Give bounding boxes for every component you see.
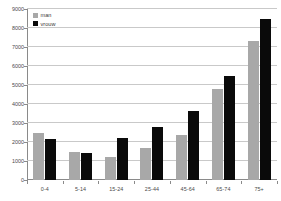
x-tick-label: 25-44 (145, 186, 159, 192)
x-tick-mark (98, 181, 99, 184)
x-tick-mark (134, 181, 135, 184)
y-tick-mark (24, 142, 27, 143)
y-tick-label: 4000 (0, 101, 24, 107)
y-tick-label: 6000 (0, 63, 24, 69)
y-tick-mark (24, 28, 27, 29)
y-tick-label: 2000 (0, 139, 24, 145)
x-tick-label: 65-74 (216, 186, 230, 192)
bar-group (206, 9, 242, 180)
y-tick-mark (24, 66, 27, 67)
bar-vrouw (152, 127, 163, 180)
plot-area (27, 9, 277, 180)
bar-group (27, 9, 63, 180)
bar-group (134, 9, 170, 180)
bar-vrouw (81, 153, 92, 180)
x-tick-mark (206, 181, 207, 184)
bar-vrouw (224, 76, 235, 181)
x-tick-mark (277, 181, 278, 184)
y-tick-label: 0 (0, 177, 24, 183)
bar-man (69, 152, 80, 180)
bar-man (140, 148, 151, 180)
bar-man (33, 133, 44, 180)
bar-vrouw (260, 19, 271, 181)
bar-group (63, 9, 99, 180)
legend-item: vrouw (33, 20, 55, 29)
y-tick-label: 9000 (0, 6, 24, 12)
x-tick-mark (27, 181, 28, 184)
y-tick-mark (24, 104, 27, 105)
bar-vrouw (188, 111, 199, 180)
bar-vrouw (117, 138, 128, 180)
y-tick-label: 8000 (0, 25, 24, 31)
bar-group (98, 9, 134, 180)
y-tick-mark (24, 161, 27, 162)
bar-vrouw (45, 139, 56, 180)
bar-man (212, 89, 223, 180)
bar-group (241, 9, 277, 180)
y-tick-label: 1000 (0, 158, 24, 164)
bar-man (105, 157, 116, 180)
legend-item: man (33, 11, 55, 20)
y-tick-label: 7000 (0, 44, 24, 50)
chart-legend: manvrouw (33, 11, 55, 28)
x-tick-label: 5-14 (75, 186, 86, 192)
x-tick-label: 75+ (254, 186, 263, 192)
x-tick-mark (170, 181, 171, 184)
x-tick-label: 0-4 (41, 186, 49, 192)
bar-group (170, 9, 206, 180)
legend-swatch-vrouw (33, 21, 38, 26)
y-tick-mark (24, 9, 27, 10)
y-tick-label: 3000 (0, 120, 24, 126)
bar-man (248, 41, 259, 180)
x-tick-label: 15-24 (109, 186, 123, 192)
bar-man (176, 135, 187, 180)
legend-label: vrouw (41, 20, 56, 29)
legend-swatch-man (33, 13, 38, 18)
x-tick-mark (241, 181, 242, 184)
y-tick-mark (24, 85, 27, 86)
legend-label: man (41, 11, 52, 20)
y-tick-label: 5000 (0, 82, 24, 88)
bar-chart: 0100020003000400050006000700080009000 0-… (0, 0, 281, 201)
y-tick-mark (24, 47, 27, 48)
x-tick-mark (63, 181, 64, 184)
y-tick-mark (24, 123, 27, 124)
x-tick-label: 45-64 (181, 186, 195, 192)
